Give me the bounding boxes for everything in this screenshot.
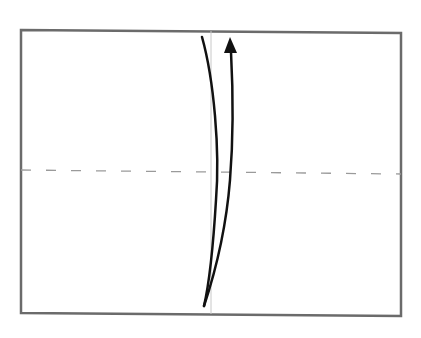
fold-diagram	[0, 0, 421, 338]
